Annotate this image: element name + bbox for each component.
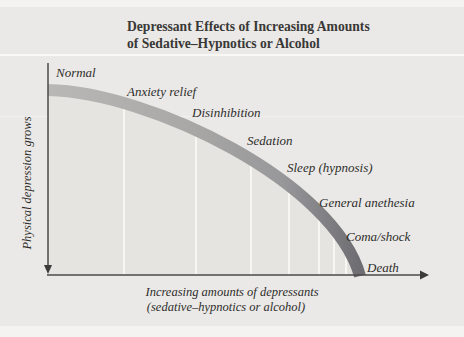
stage-label-normal: Normal bbox=[55, 65, 96, 80]
top-margin-strip bbox=[0, 0, 464, 7]
bottom-margin-strip bbox=[0, 326, 464, 337]
depressant-effects-chart: Depressant Effects of Increasing Amounts… bbox=[0, 0, 464, 337]
stage-label-coma-shock: Coma/shock bbox=[346, 229, 411, 244]
stage-label-sleep-hypnosis: Sleep (hypnosis) bbox=[287, 160, 373, 175]
x-axis-label-line2: (sedative–hypnotics or alcohol) bbox=[147, 300, 305, 314]
y-axis-label: Physical depression grows bbox=[20, 116, 34, 250]
x-axis-label-line1: Increasing amounts of depressants bbox=[144, 285, 318, 299]
stage-label-general-anesthesia: General anethesia bbox=[319, 195, 415, 210]
chart-title-line2: of Sedative–Hypnotics or Alcohol bbox=[127, 36, 320, 51]
stage-label-disinhibition: Disinhibition bbox=[191, 105, 261, 120]
stage-label-death: Death bbox=[366, 260, 399, 275]
stage-label-sedation: Sedation bbox=[247, 133, 293, 148]
title-separator-line bbox=[0, 54, 464, 56]
figure-canvas: Depressant Effects of Increasing Amounts… bbox=[0, 0, 464, 337]
stage-label-anxiety-relief: Anxiety relief bbox=[126, 84, 199, 99]
chart-title-line1: Depressant Effects of Increasing Amounts bbox=[127, 19, 370, 34]
